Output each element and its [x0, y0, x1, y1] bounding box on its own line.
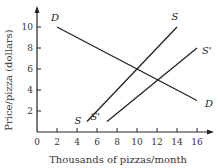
curve-s-prime-start-label: S' — [90, 111, 100, 122]
curve-s-prime — [107, 48, 197, 122]
curve-s — [87, 27, 177, 122]
x-tick-label: 2 — [54, 137, 60, 147]
x-axis-title: Thousands of pizzas/month — [49, 154, 187, 165]
y-tick-label: 10 — [22, 22, 34, 32]
x-tick-label: 4 — [74, 137, 80, 147]
curve-s-start-label: S — [75, 115, 82, 126]
curve-d-end-label: D — [204, 98, 213, 109]
y-axis-title: Price/pizza (dollars) — [3, 29, 14, 130]
axes — [35, 6, 215, 135]
y-axis-ticks: 246810 — [22, 22, 41, 116]
x-tick-label: 16 — [191, 137, 203, 147]
x-axis-ticks: 0246810121416 — [34, 128, 203, 147]
curve-d — [57, 27, 197, 101]
curves: DDSSS'S' — [50, 11, 213, 126]
curve-s-end-label: S — [172, 11, 179, 22]
supply-demand-chart: 0246810121416 246810 DDSSS'S' Thousands … — [0, 0, 218, 168]
y-tick-label: 4 — [27, 85, 33, 95]
curve-d-start-label: D — [50, 12, 59, 23]
x-tick-label: 6 — [94, 137, 100, 147]
x-tick-label: 0 — [34, 137, 40, 147]
y-tick-label: 8 — [27, 43, 33, 53]
x-tick-label: 12 — [151, 137, 162, 147]
x-tick-label: 10 — [131, 137, 143, 147]
y-tick-label: 6 — [27, 64, 33, 74]
x-tick-label: 14 — [171, 137, 183, 147]
y-axis-arrow-icon — [35, 6, 40, 13]
y-tick-label: 2 — [27, 106, 33, 116]
x-axis-arrow-icon — [207, 130, 214, 135]
x-tick-label: 8 — [114, 137, 120, 147]
curve-s-prime-end-label: S' — [202, 45, 212, 56]
